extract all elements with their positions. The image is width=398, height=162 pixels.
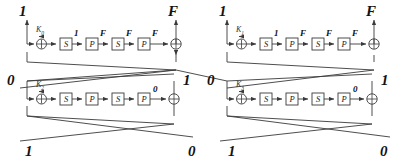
svg-text:P: P xyxy=(140,39,146,49)
svg-text:P: P xyxy=(288,39,294,49)
key-label-round-1: K1 xyxy=(236,26,244,36)
bottom-bit-2: 1 xyxy=(228,144,236,159)
output-bit-top-left: F xyxy=(168,4,178,19)
output-bit-bottom-right: 1 xyxy=(381,73,389,88)
key-subscript-3: 3 xyxy=(241,85,244,91)
bottom-bit-1: 0 xyxy=(188,144,196,159)
diagram-vector-layer: S P S P S P S P S P S P S P S P xyxy=(0,0,398,162)
stage-label-br-3: 0 xyxy=(353,85,358,94)
stage-label-tr-1: F xyxy=(300,29,306,38)
input-bit-top-left: 1 xyxy=(19,4,27,19)
input-bit-bottom-right: 0 xyxy=(207,73,215,88)
key-subscript-2: 2 xyxy=(41,85,44,91)
stage-label-tr-2: F xyxy=(326,29,332,38)
crossing-feedback-lines xyxy=(20,70,390,141)
input-bit-bottom-left: 0 xyxy=(7,73,15,88)
stage-label-tr-3: F xyxy=(352,29,358,38)
output-bit-top-right: F xyxy=(366,4,376,19)
key-label-round-3: K3 xyxy=(236,81,244,91)
stage-label-tl-2: F xyxy=(126,29,132,38)
svg-text:P: P xyxy=(88,94,94,104)
input-bit-top-right: 1 xyxy=(219,4,227,19)
svg-text:P: P xyxy=(288,94,294,104)
bottom-bit-0: 1 xyxy=(25,144,33,159)
box-letters-layer: S P S P S P S P S P S P S P S P xyxy=(64,39,347,104)
stage-label-tl-1: F xyxy=(100,29,106,38)
key-subscript-1: 1 xyxy=(241,30,244,36)
round-bottom-right-wires xyxy=(227,74,377,124)
bottom-bit-3: 0 xyxy=(380,144,388,159)
stage-label-tl-0: 1 xyxy=(74,29,79,38)
stage-label-tr-0: 1 xyxy=(274,29,279,38)
svg-text:P: P xyxy=(340,39,346,49)
key-label-round-0: K0 xyxy=(36,26,44,36)
svg-text:P: P xyxy=(88,39,94,49)
svg-text:P: P xyxy=(340,94,346,104)
svg-text:P: P xyxy=(140,94,146,104)
spn-diagram-canvas: S P S P S P S P S P S P S P S P 1 F 1 F … xyxy=(0,0,398,162)
key-subscript-0: 0 xyxy=(41,30,44,36)
key-label-round-2: K2 xyxy=(36,81,44,91)
output-bit-bottom-left: 1 xyxy=(183,73,191,88)
stage-label-bl-3: 0 xyxy=(153,85,158,94)
round-bottom-left-wires xyxy=(27,74,179,124)
stage-label-tl-3: F xyxy=(152,29,158,38)
